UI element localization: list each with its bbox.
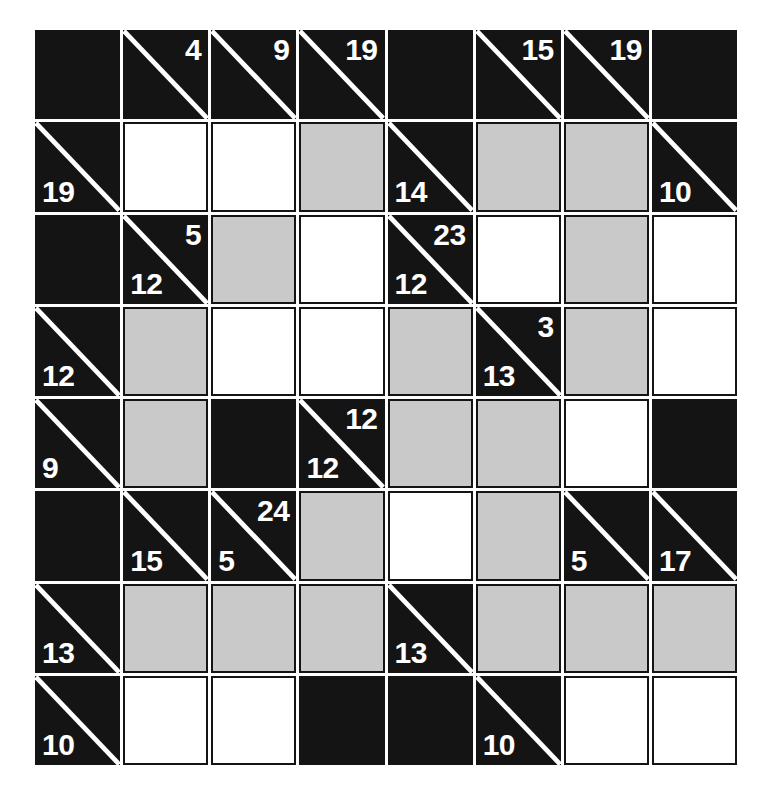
clue-cell: 19 — [564, 30, 649, 119]
entry-cell-white[interactable] — [564, 676, 649, 765]
entry-cell-white[interactable] — [476, 215, 561, 304]
clue-down-value: 5 — [185, 220, 201, 250]
clue-cell: 10 — [35, 676, 120, 765]
entry-cell-gray[interactable] — [476, 122, 561, 211]
entry-cell-white[interactable] — [123, 122, 208, 211]
clue-down-value: 9 — [273, 35, 289, 65]
entry-cell-white[interactable] — [299, 215, 384, 304]
clue-across-value: 14 — [395, 177, 427, 207]
block-cell — [299, 676, 384, 765]
clue-cell: 17 — [652, 491, 737, 580]
block-cell — [652, 399, 737, 488]
clue-down-value: 12 — [345, 404, 377, 434]
clue-across-value: 17 — [659, 546, 691, 576]
clue-cell: 10 — [652, 122, 737, 211]
clue-cell: 13 — [35, 584, 120, 673]
entry-cell-gray[interactable] — [652, 584, 737, 673]
entry-cell-white[interactable] — [299, 307, 384, 396]
entry-cell-gray[interactable] — [299, 491, 384, 580]
entry-cell-white[interactable] — [123, 676, 208, 765]
clue-across-value: 5 — [571, 546, 587, 576]
entry-cell-gray[interactable] — [564, 122, 649, 211]
clue-cell: 19 — [299, 30, 384, 119]
clue-cell: 9 — [35, 399, 120, 488]
entry-cell-white[interactable] — [211, 122, 296, 211]
clue-across-value: 12 — [306, 453, 338, 483]
entry-cell-white[interactable] — [652, 307, 737, 396]
clue-across-value: 15 — [130, 546, 162, 576]
clue-cell: 245 — [211, 491, 296, 580]
clue-cell: 14 — [388, 122, 473, 211]
block-cell — [211, 399, 296, 488]
clue-cell: 9 — [211, 30, 296, 119]
clue-cell: 12 — [35, 307, 120, 396]
clue-across-value: 5 — [218, 546, 234, 576]
entry-cell-white[interactable] — [564, 399, 649, 488]
entry-cell-white[interactable] — [388, 491, 473, 580]
entry-cell-gray[interactable] — [476, 491, 561, 580]
block-cell — [652, 30, 737, 119]
clue-down-value: 19 — [345, 35, 377, 65]
clue-cell: 5 — [564, 491, 649, 580]
clue-cell: 19 — [35, 122, 120, 211]
clue-cell: 10 — [476, 676, 561, 765]
entry-cell-white[interactable] — [211, 307, 296, 396]
clue-across-value: 13 — [42, 638, 74, 668]
clue-cell: 15 — [123, 491, 208, 580]
clue-down-value: 4 — [185, 35, 201, 65]
clue-cell: 2312 — [388, 215, 473, 304]
entry-cell-gray[interactable] — [564, 215, 649, 304]
entry-cell-gray[interactable] — [388, 399, 473, 488]
clue-across-value: 12 — [130, 269, 162, 299]
clue-across-value: 10 — [659, 177, 691, 207]
entry-cell-white[interactable] — [652, 676, 737, 765]
clue-across-value: 13 — [395, 638, 427, 668]
entry-cell-white[interactable] — [211, 676, 296, 765]
clue-down-value: 24 — [257, 496, 289, 526]
clue-down-value: 19 — [610, 35, 642, 65]
block-cell — [35, 215, 120, 304]
entry-cell-gray[interactable] — [476, 399, 561, 488]
entry-cell-gray[interactable] — [211, 215, 296, 304]
block-cell — [388, 676, 473, 765]
block-cell — [388, 30, 473, 119]
clue-down-value: 15 — [521, 35, 553, 65]
entry-cell-gray[interactable] — [388, 307, 473, 396]
clue-cell: 313 — [476, 307, 561, 396]
entry-cell-gray[interactable] — [123, 307, 208, 396]
clue-across-value: 10 — [42, 730, 74, 760]
entry-cell-gray[interactable] — [123, 584, 208, 673]
entry-cell-gray[interactable] — [564, 584, 649, 673]
clue-cell: 15 — [476, 30, 561, 119]
kakuro-puzzle: 4919151919141051223121231391212152455171… — [35, 30, 737, 765]
clue-across-value: 12 — [395, 269, 427, 299]
clue-cell: 13 — [388, 584, 473, 673]
clue-across-value: 10 — [483, 730, 515, 760]
entry-cell-gray[interactable] — [299, 584, 384, 673]
clue-cell: 512 — [123, 215, 208, 304]
clue-down-value: 23 — [433, 220, 465, 250]
clue-cell: 1212 — [299, 399, 384, 488]
clue-across-value: 13 — [483, 361, 515, 391]
clue-across-value: 19 — [42, 177, 74, 207]
block-cell — [35, 491, 120, 580]
block-cell — [35, 30, 120, 119]
entry-cell-gray[interactable] — [299, 122, 384, 211]
entry-cell-gray[interactable] — [476, 584, 561, 673]
kakuro-grid[interactable]: 4919151919141051223121231391212152455171… — [35, 30, 737, 765]
clue-across-value: 9 — [42, 453, 58, 483]
entry-cell-gray[interactable] — [564, 307, 649, 396]
entry-cell-white[interactable] — [652, 215, 737, 304]
clue-cell: 4 — [123, 30, 208, 119]
clue-down-value: 3 — [538, 312, 554, 342]
entry-cell-gray[interactable] — [211, 584, 296, 673]
clue-across-value: 12 — [42, 361, 74, 391]
entry-cell-gray[interactable] — [123, 399, 208, 488]
